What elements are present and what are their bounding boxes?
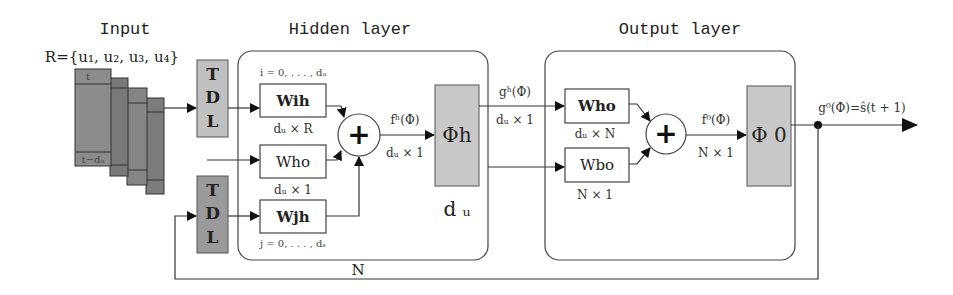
frame-top-label: t bbox=[86, 71, 90, 82]
output-f-dim: N × 1 bbox=[698, 146, 734, 160]
wbo-dim: N × 1 bbox=[577, 188, 613, 202]
who-output-label: Who bbox=[577, 97, 616, 115]
hidden-g-dim: dᵤ × 1 bbox=[496, 113, 534, 127]
svg-text:D: D bbox=[205, 87, 220, 107]
output-f-label: f⁰(Φ) bbox=[702, 113, 730, 127]
who-output-dim: dᵤ × N bbox=[575, 127, 616, 141]
wih-range-label: i = 0, . . . , dᵤ bbox=[260, 67, 326, 78]
phi-0-label: Φ 0 bbox=[751, 123, 786, 147]
output-g-label: g⁰(Φ)=ŝ(t + 1) bbox=[818, 101, 905, 115]
hidden-layer-title: Hidden layer bbox=[289, 20, 411, 39]
input-title: Input bbox=[99, 20, 150, 39]
input-frame-stack: t t−dᵤ bbox=[75, 69, 164, 194]
output-sum-symbol: + bbox=[654, 117, 677, 150]
hidden-f-dim: dᵤ × 1 bbox=[386, 146, 424, 160]
tdl-block-input: T D L bbox=[197, 60, 228, 137]
who-hidden-dim-label: dᵤ × 1 bbox=[274, 183, 312, 197]
svg-text:D: D bbox=[205, 203, 220, 223]
phi-h-size-label: d ᵤ bbox=[443, 197, 470, 221]
output-layer-title: Output layer bbox=[619, 20, 741, 39]
svg-text:T: T bbox=[206, 64, 219, 84]
narx-network-diagram: Input Hidden layer Output layer R={u₁, u… bbox=[0, 0, 953, 295]
wih-label: Wih bbox=[275, 92, 309, 110]
wjh-label: Wjh bbox=[275, 208, 309, 226]
svg-text:L: L bbox=[207, 227, 219, 247]
wih-dim-label: dᵤ × R bbox=[273, 122, 313, 136]
who-hidden-label: Who bbox=[276, 153, 310, 171]
svg-text:L: L bbox=[207, 111, 219, 131]
phi-h-label: Φh bbox=[442, 123, 471, 147]
input-set-label: R={u₁, u₂, u₃, u₄} bbox=[45, 48, 179, 66]
feedback-label: N bbox=[351, 261, 364, 279]
hidden-f-label: fʰ(Φ) bbox=[391, 113, 420, 127]
hidden-g-label: gʰ(Φ) bbox=[499, 85, 531, 99]
frame-bottom-label: t−dᵤ bbox=[82, 154, 105, 165]
wbo-label: Wbo bbox=[580, 156, 614, 174]
hidden-sum-symbol: + bbox=[347, 118, 370, 151]
svg-text:T: T bbox=[206, 180, 219, 200]
tdl-block-feedback: T D L bbox=[197, 176, 228, 253]
wjh-range-label: j = 0, . . . , dₛ bbox=[259, 238, 326, 249]
